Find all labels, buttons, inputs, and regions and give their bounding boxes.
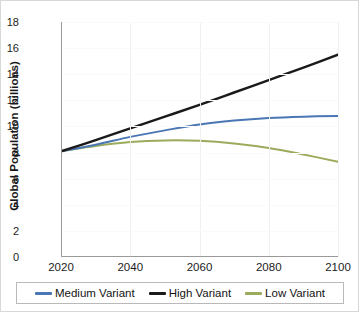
gridline-horizontal — [61, 100, 338, 101]
legend-color-swatch — [245, 292, 262, 295]
gridline-vertical — [338, 22, 339, 257]
population-projection-chart: Global Population (billions) 02468101214… — [0, 0, 359, 312]
gridline-horizontal — [61, 22, 338, 23]
x-axis-line — [61, 256, 338, 257]
legend-label: Medium Variant — [55, 287, 135, 299]
gridline-horizontal — [61, 153, 338, 154]
x-axis-tick-label: 2100 — [325, 261, 351, 273]
y-axis-line — [61, 22, 62, 257]
chart-legend: Medium VariantHigh VariantLow Variant — [16, 282, 344, 304]
gridline-horizontal — [61, 179, 338, 180]
gridline-vertical — [200, 22, 201, 257]
x-axis-tick-label: 2060 — [187, 261, 213, 273]
x-axis-tick-label: 2020 — [48, 261, 74, 273]
legend-item[interactable]: Low Variant — [245, 287, 325, 299]
gridline-horizontal — [61, 48, 338, 49]
legend-item[interactable]: Medium Variant — [35, 287, 135, 299]
plot-area — [61, 22, 338, 257]
legend-color-swatch — [149, 292, 166, 295]
legend-label: Low Variant — [265, 287, 325, 299]
legend-color-swatch — [35, 292, 52, 295]
x-axis-tick-label: 2040 — [117, 261, 143, 273]
legend-item[interactable]: High Variant — [149, 287, 231, 299]
gridline-horizontal — [61, 74, 338, 75]
gridline-vertical — [130, 22, 131, 257]
x-axis-tick-label: 2080 — [256, 261, 282, 273]
legend-label: High Variant — [169, 287, 231, 299]
gridline-horizontal — [61, 126, 338, 127]
gridline-horizontal — [61, 231, 338, 232]
gridline-horizontal — [61, 205, 338, 206]
y-axis-title: Global Population (billions) — [1, 1, 27, 271]
gridline-vertical — [269, 22, 270, 257]
y-axis-title-text: Global Population (billions) — [8, 61, 20, 211]
